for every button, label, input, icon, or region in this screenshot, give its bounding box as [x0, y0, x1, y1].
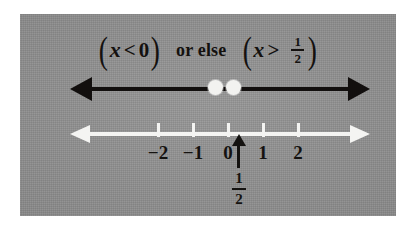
fraction-denominator: 2	[295, 51, 302, 65]
tick-mark	[227, 123, 230, 137]
tick-label-minus-2: −2	[145, 142, 171, 164]
left-relation-symbol: <	[121, 38, 139, 63]
tick-label-minus-1: −1	[180, 142, 206, 164]
left-inequality-expression: ( x < 0 )	[97, 35, 162, 65]
tick-mark	[192, 123, 195, 137]
right-inequality-expression: ( x > 1 2 )	[241, 35, 319, 65]
right-variable: x	[253, 37, 264, 63]
connector-text: or else	[162, 40, 241, 61]
open-circle-at-one-half	[226, 80, 241, 95]
left-open-paren: (	[99, 35, 108, 65]
tick-label-one: 1	[250, 142, 276, 164]
tick-mark	[262, 123, 265, 137]
open-circle-at-zero	[208, 80, 223, 95]
axis-bar	[90, 132, 352, 136]
left-close-paren: )	[151, 35, 160, 65]
axis-left-arrow-icon	[70, 125, 90, 143]
half-numerator: 1	[235, 171, 243, 186]
right-open-paren: (	[242, 35, 251, 65]
left-value: 0	[139, 38, 150, 63]
solution-right-arrow-icon	[348, 77, 370, 101]
right-value-fraction: 1 2	[291, 35, 304, 65]
tick-mark	[297, 123, 300, 137]
solution-ray-line	[70, 77, 370, 101]
right-relation-symbol: >	[264, 38, 282, 63]
tick-label-two: 2	[285, 142, 311, 164]
inequality-number-line-figure: ( x < 0 ) or else ( x > 1 2 )	[0, 0, 416, 232]
solution-left-arrow-icon	[70, 77, 92, 101]
diagram-panel: ( x < 0 ) or else ( x > 1 2 )	[20, 14, 396, 216]
inequality-statement: ( x < 0 ) or else ( x > 1 2 )	[20, 30, 396, 70]
tick-mark	[157, 123, 160, 137]
one-half-fraction-label: 1 2	[225, 171, 253, 207]
fraction-numerator: 1	[295, 35, 302, 49]
tick-label-row: −2 −1 0 1 2	[70, 142, 370, 166]
half-fraction-bar	[232, 188, 246, 190]
tick-label-zero: 0	[215, 142, 241, 164]
axis-right-arrow-icon	[350, 125, 370, 143]
half-denominator: 2	[235, 192, 243, 207]
right-close-paren: )	[308, 35, 317, 65]
left-variable: x	[110, 37, 121, 63]
